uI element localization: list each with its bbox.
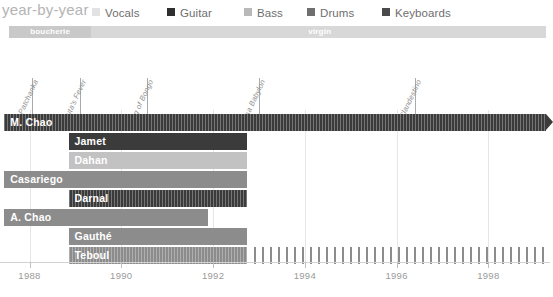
legend-label: Bass — [257, 7, 283, 19]
chart-header: year-by-year VocalsGuitarBassDrumsKeyboa… — [0, 0, 550, 22]
member-name: M. Chao — [10, 114, 52, 131]
member-name: Darnal — [75, 190, 109, 207]
legend-swatch-icon — [92, 8, 100, 16]
axis-tick-label: 1998 — [477, 270, 499, 281]
axis-tick — [488, 262, 489, 268]
timeline-bar-a-chao[interactable]: A. Chao — [4, 209, 208, 226]
timeline-arrow-icon — [546, 114, 553, 130]
timeline-bar-jamet[interactable]: Jamet — [69, 133, 248, 150]
legend-label: Vocals — [105, 7, 139, 19]
legend-item-vocals[interactable]: Vocals — [92, 3, 139, 19]
plot-area: M. ChaoJametDahanCasariegoDarnalA. ChaoG… — [0, 110, 550, 262]
member-name: Gauthé — [75, 228, 112, 245]
axis-tick-label: 1996 — [385, 270, 407, 281]
timeline-row: Jamet — [0, 133, 550, 150]
axis-line — [0, 262, 550, 263]
legend-item-drums[interactable]: Drums — [307, 3, 354, 19]
timeline-bar-dahan[interactable]: Dahan — [69, 152, 248, 169]
member-name: Dahan — [75, 152, 108, 169]
timeline-row: Casariego — [0, 171, 550, 188]
axis-tick-label: 1990 — [110, 270, 132, 281]
timeline-row: Gauthé — [0, 228, 550, 245]
record-label-boucherie: boucherie — [9, 26, 92, 38]
axis-tick — [397, 262, 398, 268]
member-name: A. Chao — [10, 209, 51, 226]
axis-tick-label: 1988 — [18, 270, 40, 281]
axis-tick — [213, 262, 214, 268]
page-title: year-by-year — [2, 1, 89, 18]
x-axis: 198819901992199419961998 — [0, 262, 550, 297]
timeline-row: Dahan — [0, 152, 550, 169]
axis-tick-label: 1992 — [202, 270, 224, 281]
member-name: Jamet — [75, 133, 106, 150]
timeline-row: M. Chao — [0, 114, 550, 131]
legend-item-bass[interactable]: Bass — [244, 3, 283, 19]
timeline-row: A. Chao — [0, 209, 550, 226]
legend-swatch-icon — [167, 8, 175, 16]
legend-label: Guitar — [180, 7, 212, 19]
timeline-bar-darnal[interactable]: Darnal — [69, 190, 248, 207]
legend-item-guitar[interactable]: Guitar — [167, 3, 212, 19]
record-label-band: boucherievirgin — [84, 26, 546, 38]
legend-item-keyboards[interactable]: Keyboards — [382, 3, 451, 19]
axis-tick-label: 1994 — [294, 270, 316, 281]
axis-tick — [305, 262, 306, 268]
album-annotations: PatchankaPuta's FeverKing of BongoCasa B… — [0, 40, 550, 118]
legend-label: Drums — [320, 7, 354, 19]
timeline-bar-casariego[interactable]: Casariego — [4, 171, 247, 188]
record-label-virgin: virgin — [91, 26, 548, 38]
member-name: Casariego — [10, 171, 63, 188]
legend-label: Keyboards — [395, 7, 451, 19]
timeline-bar-gauth[interactable]: Gauthé — [69, 228, 248, 245]
legend-swatch-icon — [307, 8, 315, 16]
axis-tick — [121, 262, 122, 268]
legend-swatch-icon — [244, 8, 252, 16]
axis-tick — [30, 262, 31, 268]
timeline-bar-m-chao[interactable]: M. Chao — [4, 114, 545, 131]
timeline-row: Darnal — [0, 190, 550, 207]
legend-swatch-icon — [382, 8, 390, 16]
